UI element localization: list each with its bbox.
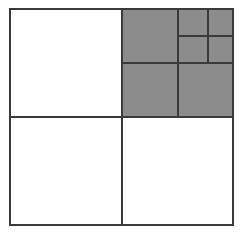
quadtree-cell-ne-ne-nw bbox=[178, 9, 208, 36]
quadtree-cell-ne-se bbox=[178, 63, 233, 117]
quadtree-cell-ne-nw bbox=[122, 9, 178, 63]
quadtree-cell-ne-sw bbox=[122, 63, 178, 117]
quadtree-cell-ne-ne-sw bbox=[178, 36, 208, 63]
quadtree-figure bbox=[0, 0, 243, 235]
quadtree-canvas bbox=[0, 0, 243, 235]
quadtree-cell-ne-ne-se bbox=[208, 36, 233, 63]
quadtree-cell-ne-ne-ne bbox=[208, 9, 233, 36]
